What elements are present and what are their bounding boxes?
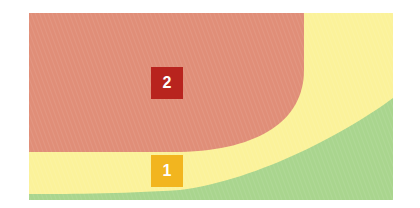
zone-1-badge: 1 bbox=[151, 155, 183, 187]
zone-2-badge: 2 bbox=[151, 67, 183, 99]
zone-diagram bbox=[0, 0, 420, 208]
